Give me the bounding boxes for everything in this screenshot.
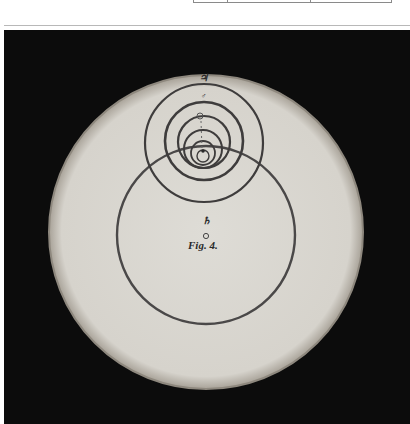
jupiter-symbol-icon: ♃: [199, 72, 208, 83]
table-fragment-bottom-edge: [193, 0, 392, 3]
figure-caption: Fig. 4.: [188, 239, 218, 251]
saturn-symbol-icon: ♄: [202, 215, 211, 226]
table-divider: [391, 0, 392, 2]
paper-disc: [49, 75, 363, 389]
table-divider: [310, 0, 311, 2]
table-divider: [193, 0, 194, 2]
horizontal-rule: [4, 25, 410, 26]
mars-symbol-icon: ♂: [201, 92, 206, 100]
astronomical-figure-photo: ♃ ♂ ♄ Fig. 4.: [4, 30, 410, 424]
table-divider: [227, 0, 228, 2]
inner-center-dot-icon: [201, 149, 205, 153]
orbit-diagram: [4, 30, 410, 424]
